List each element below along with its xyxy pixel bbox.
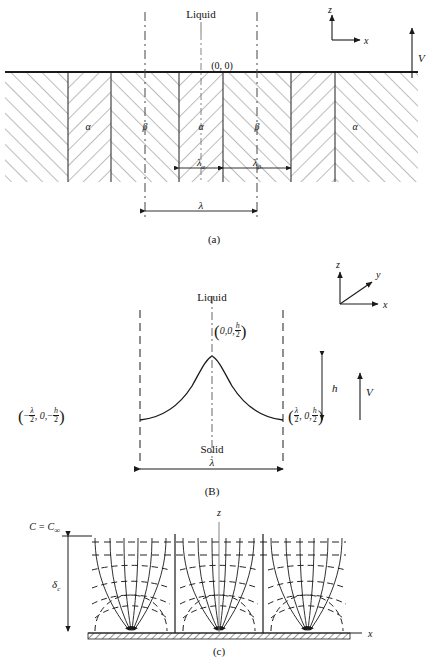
panel-c-graphic: z x C = C∞ δc (c)	[0, 500, 428, 660]
panel-a-velocity-label: V	[418, 52, 426, 64]
panel-a-axis-x-label: x	[363, 35, 369, 46]
panel-b-axis-x-label: x	[382, 299, 388, 310]
figure-root: Liquid (0, 0) z x V α β α β α λα λβ λ (a…	[0, 0, 428, 660]
phase-label-beta-2: β	[254, 121, 260, 132]
axes-b	[340, 272, 378, 304]
solid-liquid-interface-curve	[140, 356, 283, 420]
phase-label-alpha-3: α	[352, 121, 358, 132]
panel-a-liquid-label: Liquid	[186, 8, 216, 20]
diffusion-flux-lines	[95, 538, 342, 630]
panel-b-axis-y-label: y	[375, 269, 381, 280]
point-top-label: (0,0, h 2 )	[214, 320, 246, 342]
point-right-label: ( λ 2 , 0, h 2 )	[288, 405, 323, 427]
panel-a-caption: (a)	[208, 233, 221, 246]
panel-b-boundaries	[140, 310, 283, 463]
panel-a-origin-label: (0, 0)	[211, 60, 233, 72]
panel-c-caption: (c)	[213, 645, 226, 658]
substrate-hatch	[88, 633, 350, 639]
panel-b-caption: (B)	[205, 485, 220, 498]
panel-c-axis-x-label: x	[367, 628, 373, 639]
phase-label-beta-1: β	[142, 121, 148, 132]
panel-a-axis-z-label: z	[327, 4, 332, 15]
panel-b-axis-z-label: z	[335, 259, 340, 270]
point-left-label: (− λ 2 , 0,− h 2 )	[18, 405, 65, 427]
phase-label-alpha-2: α	[198, 121, 204, 132]
panel-a-graphic: Liquid (0, 0) z x V α β α β α λα λβ λ (a…	[0, 0, 428, 250]
axes-a	[332, 15, 360, 40]
panel-b-h-label: h	[332, 382, 338, 394]
panel-b-graphic: z y x Liquid Solid h V λ (B)	[0, 248, 428, 503]
lambda-total-label: λ	[198, 199, 204, 211]
phase-label-alpha-1: α	[85, 121, 91, 132]
panel-b-liquid-label: Liquid	[197, 291, 227, 303]
panel-c-axis-z-label: z	[216, 507, 221, 518]
concentration-far-field-label: C = C∞	[29, 521, 60, 535]
panel-b-solid-label: Solid	[200, 443, 224, 455]
panel-b-velocity-label: V	[366, 386, 374, 398]
boundary-layer-label: δc	[52, 578, 61, 593]
panel-b-lambda-label: λ	[209, 456, 215, 468]
